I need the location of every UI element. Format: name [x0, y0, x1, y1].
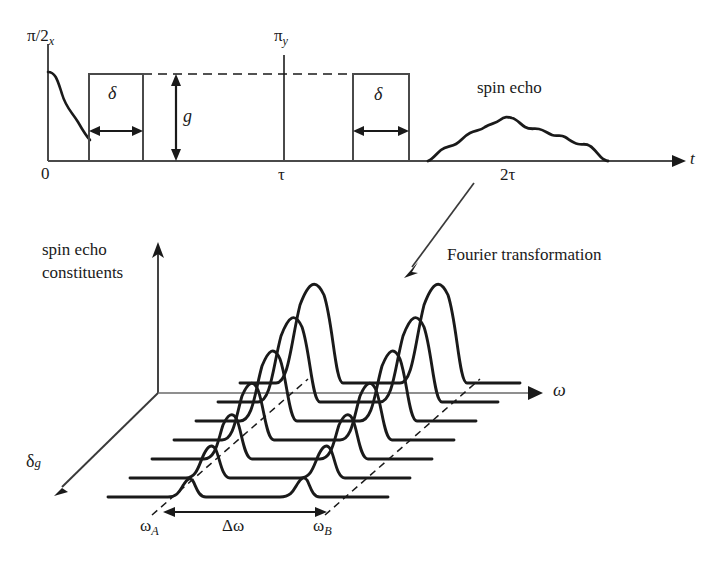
spectrum-trace-3 [152, 415, 432, 459]
delta-width-arrow-2 [353, 126, 409, 136]
time-axis-label: t [690, 149, 695, 169]
delta-omega-label: Δω [222, 516, 244, 536]
gradient-amplitude-arrow [171, 74, 181, 161]
omega-a-label-main: ω [140, 516, 151, 535]
omega-b-label-subscript: B [324, 524, 331, 538]
spectrum-trace-1 [108, 478, 388, 497]
gradient-amplitude-label: g [183, 106, 192, 127]
depth-axis [54, 393, 158, 496]
pulse-90x-label-subscript: x [49, 34, 54, 48]
time-tick-tau-label: τ [278, 165, 285, 185]
frequency-axis [158, 386, 543, 400]
depth-axis-label-subscript: g [34, 455, 40, 470]
pulse-180y-label: πy [274, 26, 288, 49]
pulse-180y-label-subscript: y [283, 34, 288, 48]
delta-omega-arrow [163, 507, 327, 517]
fourier-transformation-label: Fourier transformation [447, 245, 601, 265]
depth-axis-label: δg [26, 451, 41, 472]
delta-omega-label-delta: Δ [222, 516, 233, 535]
spin-echo-envelope [428, 117, 608, 161]
delta-label-2: δ [374, 84, 382, 105]
delta-width-arrow-1 [89, 126, 143, 136]
figure-canvas: π/2x πy δ δ g 0 τ 2τ spin echo t Fourier… [0, 0, 720, 562]
omega-b-label-main: ω [313, 516, 324, 535]
bottom-panel-group [54, 242, 543, 517]
intensity-axis-label-line1: spin echo [42, 240, 107, 260]
pulse-90x [48, 44, 90, 161]
omega-a-label-subscript: A [151, 524, 158, 538]
pulse-180y-label-main: π [274, 26, 283, 45]
pulse-90x-label-main: π/2 [27, 26, 49, 45]
intensity-axis-label-line2: constituents [42, 263, 123, 283]
omega-a-label: ωA [140, 516, 159, 539]
spectrum-trace-2 [130, 446, 410, 478]
frequency-axis-label: ω [553, 380, 566, 401]
omega-b-label: ωB [313, 516, 332, 539]
delta-label-1: δ [108, 83, 116, 104]
intensity-axis [152, 242, 164, 393]
spin-echo-label: spin echo [477, 78, 542, 98]
time-tick-2tau-label: 2τ [500, 165, 515, 185]
top-panel-group [48, 44, 686, 167]
time-tick-0-label: 0 [41, 164, 50, 184]
delta-omega-label-omega: ω [233, 516, 244, 535]
pulse-90x-label: π/2x [27, 26, 54, 49]
